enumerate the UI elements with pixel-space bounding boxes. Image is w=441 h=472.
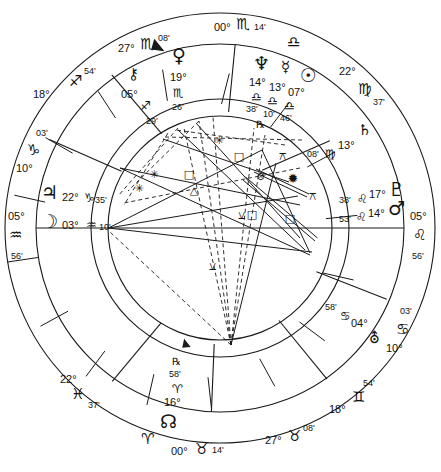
cusp-2-sign-glyph: ♓ — [71, 387, 84, 402]
cusp-4-minute: 54' — [363, 379, 375, 388]
moon-degree: 03° — [62, 220, 79, 231]
neptune-minute: 38' — [246, 105, 258, 114]
aspect-quincunx-icon: ⚻ — [309, 190, 316, 203]
ic-sign-glyph: ♉ — [195, 442, 208, 457]
cusp-4-degree: 18° — [329, 404, 346, 415]
northnode-minute: 58' — [169, 370, 181, 379]
sun-minute: 46' — [280, 114, 292, 123]
aspect-conjunction-icon: ✹ — [288, 171, 299, 186]
cusp-5-minute: 03' — [400, 307, 412, 316]
cusp-12-minute: 54' — [84, 67, 96, 76]
chiron-minute: 29' — [146, 117, 158, 126]
dsc-sign-glyph: ♌ — [413, 228, 426, 243]
venus-glyph: ♀ — [172, 46, 186, 65]
cusp-11-degree: 27° — [118, 43, 135, 54]
jupiter-minute: 35' — [95, 196, 107, 205]
cusp-11-minute: 08' — [158, 34, 170, 43]
cusp-3-minute: 08' — [303, 424, 315, 433]
cusp-6-sign-glyph: ♍ — [358, 82, 371, 97]
aspect-sextile-icon: ✳ — [149, 168, 158, 181]
jupiter-degree: 22° — [62, 192, 79, 203]
mercury-glyph: ☿ — [281, 60, 290, 75]
aspect-quincunx-icon: ⚻ — [279, 150, 286, 163]
neptune-degree: 14° — [249, 77, 266, 88]
asc-degree: 05° — [8, 211, 25, 222]
cusp-5-sign-glyph: ♋ — [396, 322, 409, 337]
uranus-sign-glyph: ♋ — [340, 310, 351, 322]
mercury-minute: 10' — [263, 110, 275, 119]
cusp-4-sign-glyph: ♊ — [352, 390, 365, 405]
mars-sign-glyph: ♌ — [356, 211, 367, 223]
dsc-degree: 05° — [410, 211, 427, 222]
cusp-12-degree: 18° — [33, 89, 50, 100]
mc-degree: 00° — [214, 22, 231, 33]
jupiter-glyph: ♃ — [41, 183, 58, 202]
chart-wheel-svg — [0, 0, 441, 472]
aspect-square-icon: □ — [184, 168, 194, 181]
moon-glyph: ☽ — [41, 212, 58, 231]
northnode-sign-glyph: ♈ — [172, 383, 183, 395]
sun-glyph: ☉ — [300, 66, 317, 85]
neptune-retrograde-icon: ℞ — [256, 120, 265, 130]
neptune-glyph: ♆ — [253, 54, 270, 73]
cusp-1-sign-glyph: ♑ — [27, 143, 40, 158]
cusp-1-degree: 10° — [16, 163, 33, 174]
aspect-sextile-icon: ✳ — [134, 182, 143, 195]
saturn-degree: 13° — [338, 140, 355, 151]
sun-degree: 07° — [288, 87, 305, 98]
natal-chart-wheel: 00° ♏ 14' 27° ♏ 08' ♎ 22° ♍ 37' 54' ♐ 18… — [0, 0, 441, 472]
pluto-degree: 17° — [369, 189, 386, 200]
aries-ring-glyph: ♈ — [141, 432, 154, 447]
zodiac-ring-divisions — [7, 70, 357, 409]
cusp-6-minute: 37' — [373, 98, 385, 107]
aspect-opposition-icon: ⦻ — [257, 170, 264, 183]
uranus-degree: 04° — [351, 318, 368, 329]
sun-sign-glyph: ♎ — [284, 100, 295, 112]
asc-sign-glyph: ♒ — [9, 228, 22, 243]
asc-minute: 56' — [11, 252, 23, 261]
cusp-11-sign-glyph: ♏ — [140, 37, 153, 52]
saturn-glyph: ♄ — [358, 123, 371, 138]
aspect-square-icon: □ — [247, 208, 257, 221]
ic-degree: 00° — [171, 446, 188, 457]
uranus-glyph: ⛢ — [369, 331, 380, 346]
aspect-square-icon: □ — [285, 212, 295, 225]
aspect-semisextile-icon: ⚺ — [209, 260, 216, 273]
mars-degree: 14° — [368, 208, 385, 219]
pluto-sign-glyph: ♌ — [357, 193, 368, 205]
cusp-3-degree: 27° — [265, 435, 282, 446]
saturn-minute: 08' — [307, 150, 319, 159]
ic-minute: 14' — [212, 446, 224, 455]
moon-sign-glyph: ♒ — [86, 219, 97, 231]
neptune-sign-glyph: ♎ — [251, 91, 262, 103]
uranus-minute: 58' — [325, 303, 337, 312]
chiron-sign-glyph: ♐ — [140, 100, 151, 112]
cusp-1-minute: 03' — [36, 129, 48, 138]
northnode-glyph: ☊ — [160, 412, 177, 431]
mars-minute: 53' — [339, 215, 351, 224]
venus-minute: 26' — [172, 103, 184, 112]
northnode-retrograde-icon: ℞ — [172, 357, 181, 367]
mercury-degree: 13° — [269, 82, 286, 93]
aspect-semisextile-icon: ⚺ — [238, 209, 245, 222]
pluto-minute: 38' — [339, 196, 351, 205]
mars-glyph: ♂ — [388, 199, 405, 218]
chiron-glyph: ⚷ — [128, 67, 139, 82]
northnode-degree: 16° — [164, 397, 181, 408]
chiron-degree: 05° — [121, 89, 138, 100]
cusp-5-degree: 10° — [386, 343, 403, 354]
aspect-lines — [109, 117, 318, 345]
cusp-3-sign-glyph: ♉ — [288, 429, 301, 444]
aspect-square-icon: □ — [234, 150, 244, 163]
aspect-trine-icon: △ — [190, 184, 198, 197]
cusp-12-sign-glyph: ♐ — [69, 74, 82, 89]
aspect-sextile-icon: ✳ — [214, 134, 223, 147]
cusp-2-degree: 22° — [60, 374, 77, 385]
cusp-6-degree: 22° — [339, 66, 356, 77]
mc-minute: 14' — [254, 23, 266, 32]
moon-minute: 10' — [99, 223, 111, 232]
mercury-sign-glyph: ♎ — [267, 95, 278, 107]
dsc-minute: 56' — [412, 252, 424, 261]
saturn-sign-glyph: ♍ — [325, 148, 336, 160]
venus-sign-glyph: ♏ — [173, 87, 184, 99]
